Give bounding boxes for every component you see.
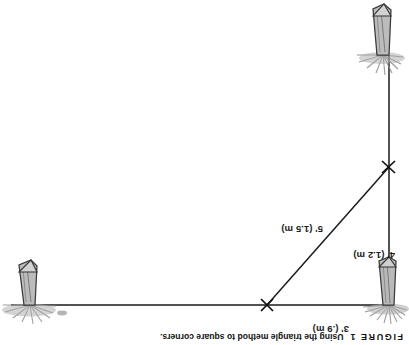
figure-drawing [0, 0, 409, 345]
string-lines [11, 55, 389, 305]
figure-caption: FIGURE 1 Using the triangle method to sq… [0, 329, 409, 345]
corner-stake [363, 257, 409, 324]
hypotenuse-string-line [267, 167, 389, 305]
caption-description: Using the triangle method to square corn… [160, 332, 343, 342]
figure-canvas: 4' (1.2 m) 5' (1.5 m) 3' (.9 m) FIGURE 1… [0, 0, 409, 345]
vertical-line-stake [357, 4, 405, 75]
horizontal-line-stake [2, 260, 67, 324]
label-vertical-leg: 4' (1.2 m) [353, 250, 395, 261]
caption-figure-word: FIGURE [359, 332, 403, 342]
label-hypotenuse: 5' (1.5 m) [281, 224, 323, 235]
caption-figure-number: 1 [350, 332, 355, 342]
rotated-page-container: 4' (1.2 m) 5' (1.5 m) 3' (.9 m) FIGURE 1… [0, 0, 409, 345]
wood-chip [57, 311, 67, 316]
